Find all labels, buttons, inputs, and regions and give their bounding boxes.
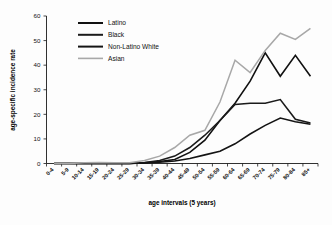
- y-axis-title: age-specific incidence rate: [9, 49, 17, 131]
- chart-figure: 0102030405060 0-45-910-1415-1920-2425-29…: [0, 0, 332, 225]
- line-chart: 0102030405060 0-45-910-1415-1920-2425-29…: [0, 0, 332, 225]
- legend-label-asian: Asian: [108, 55, 125, 62]
- x-axis-title: age intervals (5 years): [148, 199, 215, 207]
- y-tick-label-50: 50: [34, 37, 41, 44]
- y-tick-label-10: 10: [34, 135, 41, 142]
- y-tick-label-20: 20: [34, 111, 41, 118]
- legend-label-latino: Latino: [108, 19, 126, 26]
- y-tick-label-0: 0: [37, 160, 41, 167]
- y-tick-label-40: 40: [34, 61, 41, 68]
- y-tick-label-60: 60: [34, 12, 41, 19]
- y-tick-label-30: 30: [34, 86, 41, 93]
- legend-label-black: Black: [108, 31, 125, 38]
- legend-label-non-latino-white: Non-Latino White: [108, 43, 159, 50]
